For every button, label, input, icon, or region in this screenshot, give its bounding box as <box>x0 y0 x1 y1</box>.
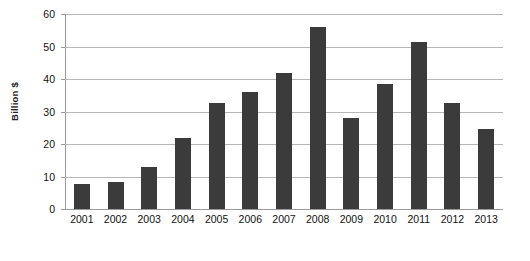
bar <box>276 73 292 210</box>
bar <box>343 118 359 209</box>
bar <box>242 92 258 209</box>
x-axis-labels: 2001200220032004200520062007200820092010… <box>65 214 503 232</box>
y-tick-label: 20 <box>15 139 55 150</box>
x-tick-label: 2013 <box>466 214 506 225</box>
y-tick-label: 30 <box>15 107 55 118</box>
bar <box>377 84 393 209</box>
bar <box>175 138 191 209</box>
bar <box>411 42 427 209</box>
bar <box>108 182 124 209</box>
y-tick-label: 0 <box>15 204 55 215</box>
y-tick-label: 60 <box>15 9 55 20</box>
bar <box>478 129 494 209</box>
bar <box>444 103 460 209</box>
y-tick-label: 40 <box>15 74 55 85</box>
bar-chart-figure: Billion $ 0102030405060 2001200220032004… <box>0 0 530 261</box>
bar <box>310 27 326 209</box>
bar <box>141 167 157 209</box>
bar <box>74 184 90 209</box>
gridline <box>65 209 503 210</box>
bar <box>209 103 225 209</box>
y-tick-label: 50 <box>15 42 55 53</box>
gridline <box>65 14 503 15</box>
y-tick-label: 10 <box>15 172 55 183</box>
plot-area <box>65 14 503 209</box>
gridline <box>65 47 503 48</box>
